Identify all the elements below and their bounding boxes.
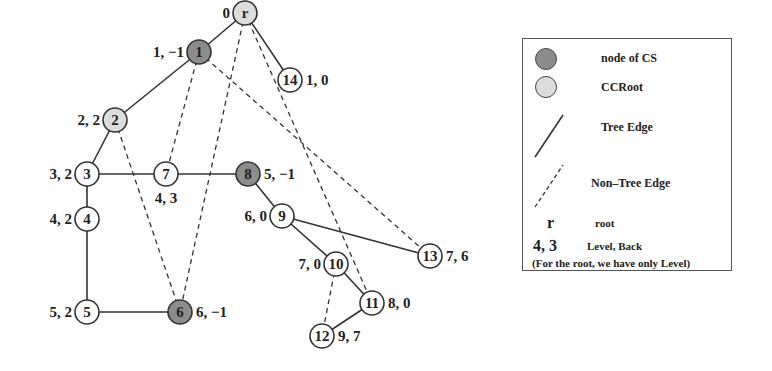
non-tree-edge-1-7 (166, 52, 199, 174)
node-label: 4 (83, 211, 91, 227)
tree-edge-1-2 (115, 52, 199, 120)
node-label: 13 (423, 248, 438, 264)
node-14: 141, 0 (278, 68, 329, 92)
legend-note: (For the root, we have only Level) (532, 257, 690, 269)
node-label: 7 (162, 166, 170, 182)
level-back-annotation: 7, 0 (299, 256, 322, 272)
node-11: 118, 0 (360, 291, 411, 315)
legend-label: Non–Tree Edge (591, 176, 670, 191)
root-symbol: r (547, 214, 554, 232)
node-label: 5 (83, 304, 91, 320)
level-back-annotation: 7, 6 (446, 248, 469, 264)
node-7: 74, 3 (154, 162, 178, 206)
level-back-annotation: 8, 0 (388, 295, 411, 311)
level-back-symbol: 4, 3 (533, 237, 557, 255)
level-back-annotation: 4, 2 (50, 211, 73, 227)
node-label: 3 (83, 166, 91, 182)
legend-label: Tree Edge (601, 120, 653, 135)
node-1: 11, −1 (153, 40, 211, 64)
node-3: 33, 2 (50, 162, 100, 186)
node-r: r0 (223, 1, 258, 25)
legend-label: CCRoot (601, 80, 643, 95)
node-13: 137, 6 (418, 244, 469, 268)
node-6: 66, −1 (168, 300, 227, 324)
legend-label: Level, Back (587, 240, 642, 252)
node-label: 12 (315, 328, 330, 344)
node-2: 22, 2 (78, 108, 128, 132)
level-back-annotation: 3, 2 (50, 166, 73, 182)
level-back-annotation: 1, 0 (306, 72, 329, 88)
node-label: 2 (111, 112, 119, 128)
dashed-line-icon (531, 161, 567, 211)
legend-label: node of CS (601, 51, 657, 66)
dark-circle-icon (535, 48, 557, 70)
level-back-annotation: 5, −1 (264, 166, 295, 182)
legend-box: node of CS CCRoot Tree Edge Non–Tree Edg… (522, 38, 732, 271)
level-back-annotation: 1, −1 (153, 44, 184, 60)
node-label: 1 (195, 44, 203, 60)
level-back-annotation: 6, 0 (245, 208, 268, 224)
solid-line-icon (531, 111, 567, 161)
level-back-annotation: 5, 2 (50, 304, 73, 320)
node-label: 6 (176, 304, 184, 320)
level-back-annotation: 4, 3 (155, 190, 178, 206)
level-back-annotation: 2, 2 (78, 112, 101, 128)
level-back-annotation: 0 (223, 5, 231, 21)
node-label: 11 (365, 295, 379, 311)
node-label: 9 (278, 208, 286, 224)
light-circle-icon (535, 76, 557, 98)
node-8: 85, −1 (236, 162, 295, 186)
node-label: 10 (329, 256, 344, 272)
node-label: 14 (283, 72, 299, 88)
legend-label: root (595, 217, 614, 229)
node-9: 96, 0 (245, 204, 295, 228)
non-tree-edge-2-6 (115, 120, 180, 312)
node-4: 44, 2 (50, 207, 100, 231)
node-5: 55, 2 (50, 300, 100, 324)
node-label: 8 (244, 166, 252, 182)
node-label: r (242, 5, 249, 21)
level-back-annotation: 9, 7 (338, 328, 361, 344)
node-10: 107, 0 (299, 252, 349, 276)
level-back-annotation: 6, −1 (196, 304, 227, 320)
